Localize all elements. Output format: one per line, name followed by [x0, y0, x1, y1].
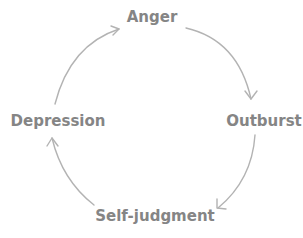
arrow-outburst-to-selfjudgment	[217, 135, 255, 209]
arrow-selfjudgment-to-depression	[47, 138, 94, 205]
arrow-depression-to-anger	[55, 26, 119, 104]
cycle-diagram: Anger Outburst Self-judgment Depression	[0, 0, 303, 238]
node-self-judgment: Self-judgment	[95, 207, 215, 225]
node-anger: Anger	[127, 8, 178, 26]
node-outburst: Outburst	[226, 112, 302, 130]
arrow-anger-to-outburst	[186, 28, 257, 99]
node-depression: Depression	[11, 112, 106, 130]
